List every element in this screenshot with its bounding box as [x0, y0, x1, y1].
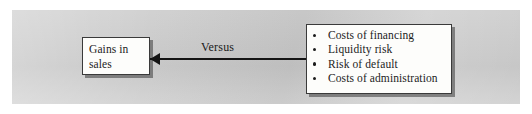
- list-item: Costs of financing: [307, 28, 438, 42]
- list-item: Liquidity risk: [307, 42, 438, 56]
- bullet-icon: [313, 34, 316, 37]
- list-item-label: Risk of default: [328, 58, 398, 70]
- bullet-icon: [313, 62, 316, 65]
- gains-in-sales-box: Gains in sales: [82, 37, 150, 75]
- list-item-label: Liquidity risk: [328, 43, 392, 55]
- bullet-icon: [313, 77, 316, 80]
- list-item-label: Costs of financing: [328, 29, 414, 41]
- gains-in-sales-label: Gains in sales: [89, 42, 146, 71]
- versus-diagram-figure: Gains in sales Versus Costs of financing…: [0, 0, 532, 114]
- risks-list-box: Costs of financing Liquidity risk Risk o…: [306, 24, 452, 94]
- list-item: Risk of default: [307, 57, 438, 71]
- list-item: Costs of administration: [307, 71, 438, 85]
- risks-list: Costs of financing Liquidity risk Risk o…: [307, 28, 438, 86]
- versus-label: Versus: [201, 41, 234, 54]
- bullet-icon: [313, 48, 316, 51]
- list-item-label: Costs of administration: [328, 72, 438, 84]
- versus-arrow-line: [150, 58, 320, 60]
- arrowhead-left-icon: [150, 53, 160, 65]
